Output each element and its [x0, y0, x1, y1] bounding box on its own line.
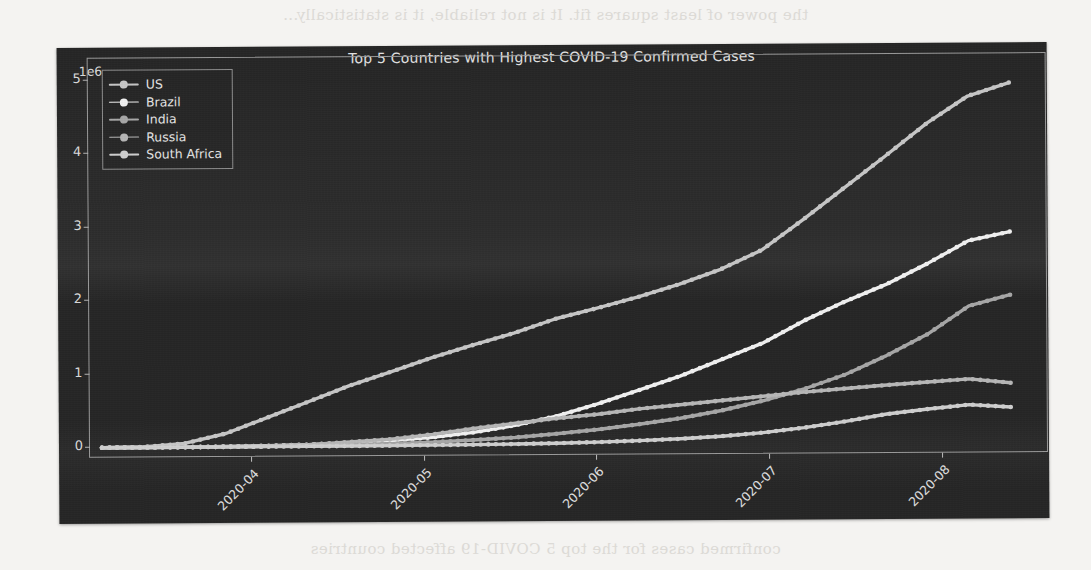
x-tick-mark-1: [424, 456, 425, 461]
y-tick-mark-5: [83, 80, 88, 81]
legend-line-marker-icon: [109, 96, 139, 108]
y-tick-mark-2: [84, 300, 89, 301]
x-tick-label-3: 2020-07: [728, 463, 779, 515]
y-tick-label-4: 4: [59, 144, 81, 159]
x-tick-mark-2: [596, 455, 597, 460]
legend-item-brazil[interactable]: Brazil: [109, 93, 222, 111]
legend-label: US: [146, 77, 163, 92]
y-tick-mark-1: [85, 373, 90, 374]
chart-figure: Top 5 Countries with Highest COVID-19 Co…: [57, 42, 1050, 524]
series-russia: [99, 377, 1013, 450]
chart-legend: USBrazilIndiaRussiaSouth Africa: [102, 69, 234, 169]
legend-label: Brazil: [146, 94, 181, 109]
x-tick-mark-4: [942, 453, 943, 458]
legend-item-russia[interactable]: Russia: [109, 128, 222, 146]
x-tick-label-4: 2020-08: [901, 462, 952, 514]
x-tick-mark-0: [251, 457, 252, 462]
legend-label: India: [146, 112, 177, 127]
legend-line-marker-icon: [109, 148, 139, 160]
page-bleed-text-bottom: confirmed cases for the top 5 COVID-19 a…: [0, 540, 1091, 558]
legend-line-marker-icon: [109, 131, 139, 143]
x-tick-label-2: 2020-06: [556, 464, 607, 516]
y-tick-label-3: 3: [60, 218, 82, 233]
y-tick-label-1: 1: [60, 364, 82, 379]
series-india: [99, 292, 1014, 450]
series-south-africa: [99, 402, 1013, 450]
legend-item-us[interactable]: US: [109, 75, 222, 93]
series-us: [97, 80, 1013, 450]
legend-line-marker-icon: [109, 113, 139, 125]
y-tick-label-5: 5: [59, 71, 81, 86]
x-tick-label-0: 2020-04: [210, 466, 261, 518]
y-tick-mark-3: [84, 227, 89, 228]
page-bleed-text-top: the power of least squares fit. It is no…: [0, 6, 1091, 24]
x-tick-mark-3: [769, 454, 770, 459]
y-tick-label-2: 2: [60, 291, 82, 306]
x-tick-label-1: 2020-05: [383, 465, 434, 517]
y-tick-mark-4: [83, 153, 88, 154]
legend-item-india[interactable]: India: [109, 110, 222, 128]
y-tick-mark-0: [85, 447, 90, 448]
legend-label: South Africa: [146, 146, 222, 161]
legend-item-south-africa[interactable]: South Africa: [109, 145, 222, 163]
legend-line-marker-icon: [109, 78, 139, 90]
y-tick-label-0: 0: [61, 438, 83, 453]
legend-label: Russia: [146, 129, 186, 144]
